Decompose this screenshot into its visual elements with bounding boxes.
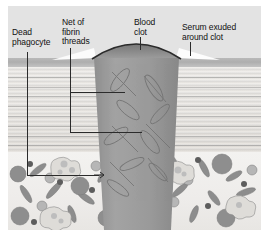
- wound-clot-figure: Dead phagocyte Net of fibrin threads Blo…: [0, 0, 269, 235]
- leader-fibrin-vertical: [70, 48, 71, 133]
- label-blood-clot: Blood clot: [134, 18, 155, 37]
- label-dead-phagocyte: Dead phagocyte: [12, 28, 50, 47]
- leader-dead-phagocyte-horizontal: [27, 175, 99, 176]
- leader-blood-clot-tick: [140, 37, 141, 50]
- label-fibrin-threads: Net of fibrin threads: [62, 18, 90, 47]
- leader-dead-phagocyte-vertical: [27, 52, 28, 175]
- leader-fibrin-branch-lower: [70, 132, 142, 133]
- leader-dead-phagocyte-arrow: [94, 170, 108, 180]
- leader-fibrin-branch-upper: [70, 92, 125, 93]
- serum-wedge-left: [52, 48, 96, 60]
- label-serum-exuded: Serum exuded around clot: [182, 23, 236, 42]
- serum-wedge-right: [176, 48, 220, 60]
- leader-serum-tick: [190, 42, 191, 56]
